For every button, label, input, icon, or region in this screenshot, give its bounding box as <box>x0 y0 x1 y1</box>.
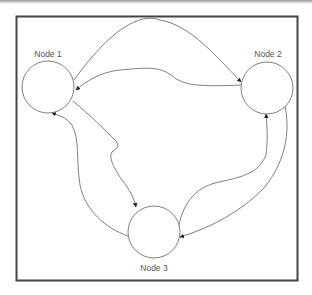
edge-n2-n1-middle[interactable] <box>76 68 241 90</box>
node-3-label: Node 3 <box>140 263 168 273</box>
node-3-circle[interactable] <box>128 206 180 258</box>
graph-diagram: Node 1 Node 2 Node 3 <box>0 0 312 295</box>
edge-n1-n3[interactable] <box>73 101 136 207</box>
edge-n3-n1[interactable] <box>52 113 128 236</box>
node-1-label: Node 1 <box>34 49 62 59</box>
edge-n2-n3[interactable] <box>180 106 287 237</box>
edge-n3-n2[interactable] <box>177 114 267 237</box>
edge-n1-n2-upper[interactable] <box>74 18 241 82</box>
node-2-label: Node 2 <box>254 49 282 59</box>
node-2-circle[interactable] <box>241 62 293 114</box>
node-1-circle[interactable] <box>22 61 74 113</box>
